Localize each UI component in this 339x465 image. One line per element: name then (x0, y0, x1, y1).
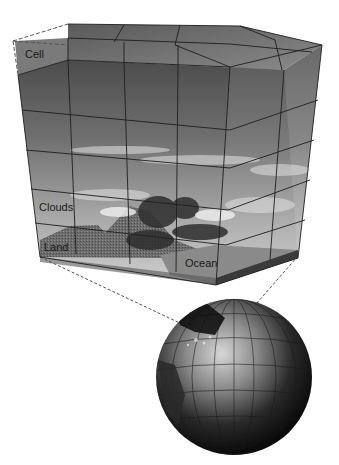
label-cell: Cell (25, 48, 44, 60)
label-ocean: Ocean (185, 257, 217, 269)
label-clouds: Clouds (39, 201, 73, 213)
globe (156, 299, 312, 455)
label-land: Land (44, 241, 68, 253)
climate-grid-diagram (0, 0, 339, 465)
